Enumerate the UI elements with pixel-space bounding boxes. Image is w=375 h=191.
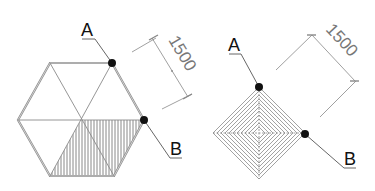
leader-a — [229, 54, 259, 87]
point-a — [108, 59, 116, 67]
hexagon-spokes — [18, 63, 144, 176]
diagram-canvas: A B 1500 — [0, 0, 375, 191]
point-b-label: B — [170, 139, 182, 159]
leader-a — [82, 39, 112, 63]
square-diagonals — [213, 87, 305, 179]
point-a — [255, 83, 263, 91]
hexagon-figure: A B 1500 — [18, 20, 200, 176]
point-b — [140, 116, 148, 124]
point-b — [301, 130, 309, 138]
point-a-label: A — [228, 35, 240, 55]
dimension-label-square: 1500 — [322, 20, 362, 61]
point-a-label: A — [81, 20, 93, 40]
square-figure: A B 1500 — [213, 20, 362, 179]
point-b-label: B — [344, 149, 356, 169]
